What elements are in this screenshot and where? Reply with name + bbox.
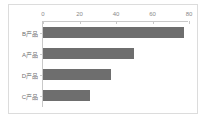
x-tick-label-1: 20 [76,9,83,20]
category-label-2: D产品 [9,71,38,80]
category-label-3: C产品 [9,92,38,101]
bar-row: B产品 [9,22,197,43]
chart-frame: 0 20 40 60 80 B产品 A产品 [8,4,198,114]
bar-row: C产品 [9,85,197,106]
x-tick-label-2: 40 [113,9,120,20]
x-tick-label-3: 60 [149,9,156,20]
bar-row: A产品 [9,43,197,64]
bar-2[interactable] [43,69,111,80]
bar-3[interactable] [43,90,90,101]
x-tick-label-0: 0 [41,9,44,20]
bar-0[interactable] [43,27,184,38]
bar-chart-plot: 0 20 40 60 80 B产品 A产品 [9,5,197,113]
bar-1[interactable] [43,48,134,59]
category-label-0: B产品 [9,29,38,38]
x-axis-tick-labels: 0 20 40 60 80 [9,9,197,20]
bar-row: D产品 [9,64,197,85]
bar-rows: B产品 A产品 D产品 C产品 [9,22,197,107]
x-tick-label-4: 80 [186,9,193,20]
category-label-1: A产品 [9,50,38,59]
